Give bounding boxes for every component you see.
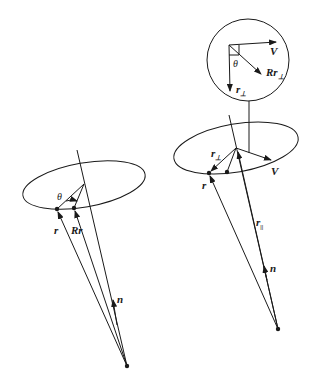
right-point-Rr — [225, 170, 229, 174]
inset-detail: V θ Rr⊥ r⊥ — [207, 19, 289, 101]
left-angle-arc — [66, 200, 77, 201]
right-V-vector — [236, 148, 271, 160]
right-V-label: V — [271, 165, 280, 177]
left-n-label: n — [117, 293, 123, 305]
right-origin-point — [276, 327, 280, 331]
rotation-diagram: θ r Rr n r⊥ V r r|| n — [0, 0, 316, 375]
inset-theta-label: θ — [233, 58, 238, 69]
right-point-r — [207, 171, 211, 175]
left-point-r — [55, 207, 59, 211]
inset-Rr-perp-label: Rr⊥ — [265, 66, 284, 81]
inset-circle — [207, 19, 289, 101]
right-r-label: r — [202, 179, 207, 191]
left-axis-line — [77, 150, 127, 366]
inset-r-perp-label: r⊥ — [236, 83, 246, 98]
left-Rr-vector — [75, 211, 127, 366]
right-r-parallel-vector — [238, 152, 278, 329]
inset-V-vector — [229, 42, 276, 45]
left-Rr-label: Rr — [70, 224, 83, 236]
right-r-perp-label: r⊥ — [211, 147, 221, 162]
right-n-label: n — [270, 262, 276, 274]
right-n-arrow — [264, 266, 267, 280]
left-point-Rr — [72, 206, 76, 210]
left-radius-Rr — [74, 184, 84, 208]
inset-r-perp-vector — [229, 45, 230, 91]
inset-V-label: V — [270, 45, 279, 57]
right-r-parallel-label: r|| — [256, 216, 263, 231]
left-r-label: r — [54, 224, 59, 236]
left-r-vector — [58, 212, 127, 366]
left-theta-label: θ — [57, 191, 62, 202]
left-origin-point — [125, 364, 129, 368]
right-r-vector — [210, 176, 278, 329]
left-figure: θ r Rr n — [19, 150, 149, 368]
right-figure: r⊥ V r r|| n — [170, 101, 302, 331]
